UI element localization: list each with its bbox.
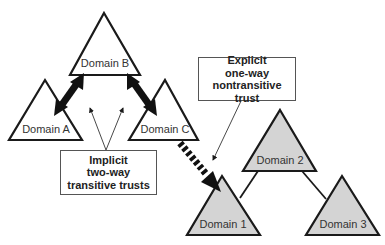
tree-link-d2-d3 bbox=[302, 171, 326, 199]
domain-a-label: Domain A bbox=[22, 123, 70, 135]
explicit-pointer bbox=[213, 101, 241, 160]
implicit-callout-line-2: two-way bbox=[61, 166, 156, 179]
explicit-callout-line-1: Explicit bbox=[199, 54, 295, 67]
two-way-trust-arrow-a-b bbox=[54, 73, 84, 116]
implicit-trust-callout: Implicit two-way transitive trusts bbox=[60, 150, 157, 195]
two-way-trust-arrow-b-c bbox=[127, 73, 157, 116]
one-way-trust-arrow-c-1 bbox=[180, 143, 221, 192]
explicit-callout-line-2: one-way bbox=[199, 67, 295, 80]
implicit-pointer-right bbox=[106, 108, 123, 150]
implicit-pointer-left bbox=[90, 108, 106, 150]
domain-b-label: Domain B bbox=[81, 57, 129, 69]
explicit-callout-line-3: nontransitive trust bbox=[199, 79, 295, 104]
domain-1-label: Domain 1 bbox=[199, 218, 246, 230]
implicit-callout-line-1: Implicit bbox=[61, 154, 156, 167]
domain-3-label: Domain 3 bbox=[319, 218, 366, 230]
domain-c-label: Domain C bbox=[141, 123, 190, 135]
trust-diagram: Domain B Domain A Domain C Domain 2 Doma… bbox=[0, 0, 385, 245]
explicit-trust-callout: Explicit one-way nontransitive trust bbox=[198, 57, 296, 101]
tree-link-d2-d1 bbox=[240, 171, 258, 198]
implicit-callout-line-3: transitive trusts bbox=[61, 179, 156, 192]
domain-2-label: Domain 2 bbox=[256, 154, 303, 166]
